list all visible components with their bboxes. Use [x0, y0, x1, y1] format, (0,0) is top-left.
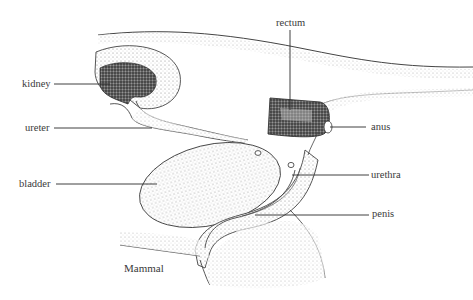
label-rectum: rectum: [276, 18, 305, 29]
caption-mammal: Mammal: [124, 263, 164, 274]
anatomy-diagram: kidney ureter bladder rectum anus urethr…: [0, 0, 473, 300]
rectum: [268, 98, 332, 137]
diagram-illustration: [0, 0, 473, 300]
ureter: [110, 101, 248, 143]
label-ureter: ureter: [25, 123, 49, 134]
label-kidney: kidney: [22, 79, 51, 90]
kidney: [95, 46, 180, 109]
label-bladder: bladder: [19, 179, 51, 190]
label-urethra: urethra: [371, 170, 401, 181]
label-anus: anus: [371, 122, 390, 133]
label-penis: penis: [372, 209, 394, 220]
